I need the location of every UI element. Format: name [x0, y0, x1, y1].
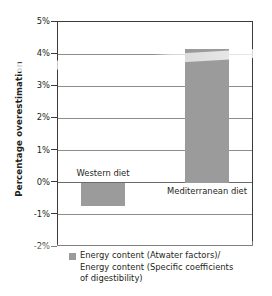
y-tick-label: 4%	[20, 48, 50, 58]
legend-swatch-icon	[69, 253, 76, 260]
legend-line-2: Energy content (Specific coefficients	[80, 262, 233, 274]
y-tick-label: -2%	[20, 241, 50, 251]
legend-line-1: Energy content (Atwater factors)/	[80, 250, 233, 262]
plot-area: Western dietMediterranean diet	[57, 21, 253, 246]
y-tick-label: 5%	[20, 16, 50, 26]
bar-chart-figure: Percentage overestimation 5%4%3%2%1%0%-1…	[0, 0, 272, 296]
chart-legend: Energy content (Atwater factors)/ Energy…	[69, 250, 269, 285]
bar-mediterranean-diet[interactable]	[185, 49, 229, 182]
legend-line-3: of digestibility)	[80, 273, 233, 285]
bar-western-diet[interactable]	[81, 183, 125, 206]
y-tick-label: -1%	[20, 209, 50, 219]
gridline-neg1pct	[58, 214, 252, 215]
y-tick-label: 1%	[20, 145, 50, 155]
y-tick-label: 3%	[20, 80, 50, 90]
y-axis-title: Percentage overestimation	[14, 44, 24, 214]
y-tick-label: 2%	[20, 112, 50, 122]
category-label-mediterranean-diet: Mediterranean diet	[147, 186, 267, 196]
y-tick-label: 0%	[20, 177, 50, 187]
legend-text: Energy content (Atwater factors)/ Energy…	[80, 250, 233, 285]
category-label-western-diet: Western diet	[43, 168, 163, 178]
